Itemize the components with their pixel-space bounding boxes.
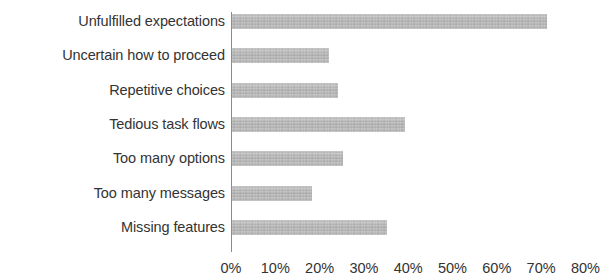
bar <box>232 220 387 235</box>
bar <box>232 186 312 201</box>
bar <box>232 48 329 63</box>
category-label: Tedious task flows <box>10 117 225 132</box>
category-label: Too many options <box>10 151 225 166</box>
tick-label: 80% <box>555 260 604 276</box>
bar <box>232 14 547 29</box>
plot-area <box>231 8 598 252</box>
category-label: Uncertain how to proceed <box>10 48 225 63</box>
category-label: Too many messages <box>10 186 225 201</box>
bar <box>232 83 338 98</box>
category-label: Unfulfilled expectations <box>10 14 225 29</box>
bar <box>232 117 405 132</box>
category-label: Repetitive choices <box>10 83 225 98</box>
bar <box>232 151 343 166</box>
category-label: Missing features <box>10 220 225 235</box>
